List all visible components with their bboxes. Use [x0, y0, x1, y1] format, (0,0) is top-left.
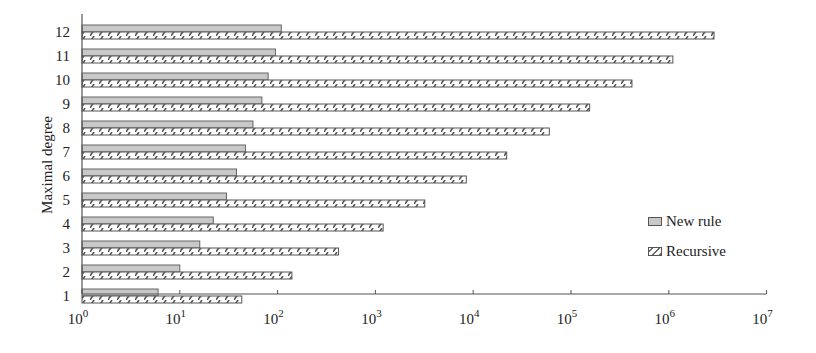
- bar-new-rule: [82, 97, 262, 104]
- bar-new-rule: [82, 121, 253, 128]
- y-tick-label: 9: [63, 96, 71, 112]
- bar-recursive: [82, 56, 673, 63]
- y-tick-label: 1: [63, 288, 71, 304]
- bar-recursive: [82, 296, 242, 303]
- y-tick-label: 6: [63, 168, 71, 184]
- legend: New rule Recursive: [648, 206, 726, 266]
- x-tick-label: 102: [263, 307, 284, 327]
- y-tick-label: 11: [56, 48, 70, 64]
- bar-new-rule: [82, 49, 275, 56]
- bar-recursive: [82, 176, 466, 183]
- bar-new-rule: [82, 193, 226, 200]
- legend-label-recursive: Recursive: [666, 243, 726, 260]
- bar-recursive: [82, 32, 714, 39]
- bar-recursive: [82, 80, 632, 87]
- bars-group: [82, 25, 714, 303]
- y-tick-label: 7: [63, 144, 71, 160]
- bar-new-rule: [82, 169, 237, 176]
- y-tick-label: 8: [63, 120, 71, 136]
- bar-recursive: [82, 200, 425, 207]
- y-tick-label: 5: [63, 192, 71, 208]
- y-tick-label: 3: [63, 240, 71, 256]
- x-tick-label: 101: [166, 307, 187, 327]
- x-tick-label: 104: [459, 307, 480, 327]
- y-tick-label: 4: [63, 216, 71, 232]
- bar-recursive: [82, 248, 339, 255]
- y-tick-label: 10: [55, 72, 70, 88]
- bar-recursive: [82, 128, 549, 135]
- bar-new-rule: [82, 289, 158, 296]
- bar-new-rule: [82, 73, 268, 80]
- bar-recursive: [82, 272, 292, 279]
- bar-chart: 123456789101112100101102103104105106107M…: [0, 0, 816, 353]
- new-rule-swatch-icon: [648, 217, 662, 226]
- bar-new-rule: [82, 145, 246, 152]
- bar-new-rule: [82, 241, 200, 248]
- legend-item-new-rule: New rule: [648, 206, 726, 236]
- bar-new-rule: [82, 217, 213, 224]
- bar-recursive: [82, 104, 590, 111]
- y-axis-label: Maximal degree: [39, 116, 55, 214]
- legend-item-recursive: Recursive: [648, 236, 726, 266]
- bar-recursive: [82, 152, 507, 159]
- x-tick-label: 100: [68, 307, 89, 327]
- bar-new-rule: [82, 265, 180, 272]
- x-tick-label: 103: [361, 307, 382, 327]
- bar-new-rule: [82, 25, 281, 32]
- x-tick-label: 105: [557, 307, 578, 327]
- y-tick-label: 12: [55, 24, 70, 40]
- y-tick-label: 2: [63, 264, 71, 280]
- x-tick-label: 107: [752, 307, 773, 327]
- recursive-swatch-icon: [648, 247, 662, 256]
- legend-label-new-rule: New rule: [666, 213, 721, 230]
- bar-recursive: [82, 224, 383, 231]
- x-tick-label: 106: [655, 307, 676, 327]
